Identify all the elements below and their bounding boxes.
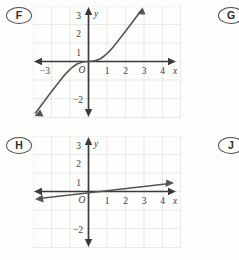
line-arrow-right-h	[165, 179, 174, 187]
x-axis-name-h: x	[172, 196, 178, 206]
y-tick-label-2-h: 2	[76, 159, 81, 169]
y-tick-label-3-f: 3	[76, 11, 81, 21]
x-tick-label-2-h: 2	[123, 196, 128, 206]
x-tick-label-1-f: 1	[105, 66, 110, 76]
y-axis-name-f: y	[93, 9, 99, 19]
choice-letter-j-partial[interactable]: J	[218, 137, 239, 154]
choice-letter-f[interactable]: F	[6, 7, 32, 24]
x-tick-label-4-f: 4	[160, 66, 165, 76]
x-axis-f	[34, 58, 176, 65]
y-axis-name-h: y	[93, 139, 99, 149]
graph-svg-f: −3 1 2 3 4 3 2 1 −2 O x y	[33, 6, 181, 118]
x-axis-name-f: x	[172, 66, 178, 76]
x-tick-label-3-f: 3	[142, 66, 147, 76]
line-arrow-left-h	[35, 195, 44, 203]
x-tick-label-3-h: 3	[142, 196, 147, 206]
answer-choice-panel-h: H J	[0, 130, 239, 260]
x-tick-label-1-h: 1	[105, 196, 110, 206]
graph-svg-h: 1 2 3 4 3 2 1 −2 O x y	[33, 136, 181, 248]
y-tick-label-1-f: 1	[76, 48, 81, 58]
choice-letter-g-partial[interactable]: G	[218, 7, 239, 24]
coordinate-graph-f: −3 1 2 3 4 3 2 1 −2 O x y	[33, 6, 181, 118]
y-tick-label-neg2-f: −2	[73, 95, 83, 105]
answer-choice-panel-f: F G	[0, 0, 239, 130]
y-tick-label-neg2-h: −2	[73, 225, 83, 235]
origin-label-f: O	[79, 65, 86, 75]
x-tick-label-neg3-f: −3	[40, 66, 50, 76]
choice-letter-h[interactable]: H	[6, 137, 32, 154]
y-tick-label-2-f: 2	[76, 29, 81, 39]
x-tick-label-4-h: 4	[160, 196, 165, 206]
y-tick-label-3-h: 3	[76, 141, 81, 151]
x-tick-label-2-f: 2	[123, 66, 128, 76]
y-tick-label-1-h: 1	[76, 178, 81, 188]
coordinate-graph-h: 1 2 3 4 3 2 1 −2 O x y	[33, 136, 181, 248]
origin-label-h: O	[79, 195, 86, 205]
